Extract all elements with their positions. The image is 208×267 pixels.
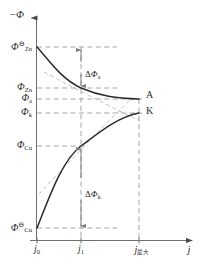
phi-symbol: Φ (11, 222, 19, 233)
y-tick-label-phi-cu: ΦCu (17, 140, 32, 151)
annotation-delta-phi-k: ΔΦk (85, 190, 101, 201)
x-axis-label: j (188, 245, 191, 256)
subscript-zero: 0 (37, 248, 40, 255)
subscript-k: k (98, 194, 101, 200)
phi-symbol: Φ (21, 92, 29, 103)
subscript-one: 1 (81, 248, 84, 255)
subscript-maximum: 最大 (137, 249, 149, 255)
phi-symbol: Φ (11, 41, 19, 52)
subscript-cu: Cu (24, 144, 32, 151)
x-tick-label-j-max: j最大 (135, 245, 150, 256)
tangent-lines (39, 72, 140, 194)
subscript-cu: Cu (24, 226, 32, 233)
phi-symbol: Φ (17, 81, 25, 92)
x-tick-label-j-one: j1 (78, 244, 84, 255)
polarization-curve-figure: −Φ Φ⊖Zn ΦZn Φa Φk ΦCu Φ⊖Cu j0 j1 j最大 j Δ… (0, 0, 208, 267)
subscript-a: a (98, 74, 101, 80)
y-axis-phi-symbol: Φ (16, 9, 24, 20)
y-axis-label: −Φ (10, 10, 24, 21)
j-symbol: j (188, 244, 191, 255)
annotation-delta-phi-a: ΔΦa (85, 70, 100, 81)
phi-symbol: Φ (21, 106, 29, 117)
y-tick-label-phi-a: Φa (21, 93, 32, 104)
subscript-zn: Zn (25, 45, 32, 52)
y-tick-label-phi-zn-standard: Φ⊖Zn (11, 41, 32, 53)
cathodic-curve (37, 113, 139, 228)
point-label-a: A (146, 90, 153, 100)
y-tick-label-phi-cu-standard: Φ⊖Cu (11, 222, 32, 234)
phi-symbol: Φ (17, 139, 25, 150)
x-tick-label-j-zero: j0 (34, 244, 40, 255)
subscript-a: a (29, 97, 32, 104)
point-label-k: K (146, 106, 153, 116)
phi-symbol: Φ (91, 189, 98, 199)
y-tick-label-phi-k: Φk (21, 107, 32, 118)
phi-symbol: Φ (91, 69, 98, 79)
subscript-k: k (29, 111, 32, 118)
axis-group (30, 18, 192, 241)
